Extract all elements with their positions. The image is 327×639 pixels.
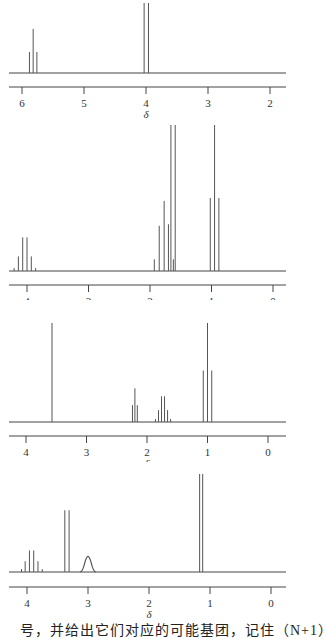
x-axis-label: δ [144, 457, 150, 462]
x-axis-tick-label: 4 [23, 446, 29, 458]
x-axis-tick-label: 1 [207, 597, 213, 609]
x-axis-tick-label: 0 [268, 597, 274, 609]
nmr-spectrum-panel-2: 43210δ [0, 120, 290, 300]
nmr-spectrum-panel-4: 43210δ [0, 472, 290, 622]
x-axis-tick-label: 2 [147, 295, 153, 300]
x-axis-label: δ [143, 108, 149, 118]
x-axis-tick-label: 3 [86, 295, 92, 300]
x-axis-tick-label: 0 [265, 446, 271, 458]
spectrum-plot: 43210δ [0, 472, 290, 622]
broad-nmr-peak [80, 556, 96, 572]
x-axis-tick-label: 3 [205, 97, 211, 109]
spectrum-plot: 43210δ [0, 120, 290, 300]
x-axis-tick-label: 3 [84, 446, 90, 458]
nmr-spectrum-panel-1: 65432δ [0, 0, 290, 118]
x-axis-tick-label: 1 [209, 295, 215, 300]
x-axis-tick-label: 4 [24, 597, 30, 609]
x-axis-tick-label: 3 [85, 597, 91, 609]
spectrum-plot: 65432δ [0, 0, 290, 118]
spectrum-plot: 43210δ [0, 316, 290, 462]
x-axis-tick-label: 6 [19, 97, 25, 109]
x-axis-tick-label: 5 [81, 97, 87, 109]
x-axis-tick-label: 4 [24, 295, 30, 300]
x-axis-tick-label: 1 [205, 446, 211, 458]
nmr-spectrum-panel-3: 43210δ [0, 316, 290, 462]
x-axis-tick-label: 2 [267, 97, 273, 109]
x-axis-tick-label: 0 [270, 295, 276, 300]
figure-caption: 号，并给出它们对应的可能基团，记住（N+1） [20, 619, 310, 639]
